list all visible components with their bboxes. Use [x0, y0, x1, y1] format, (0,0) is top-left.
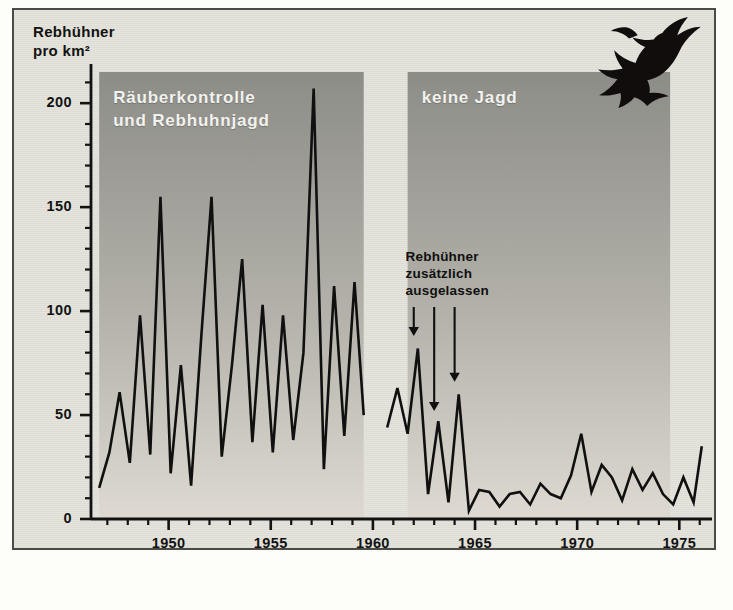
- y-tick-label: 100: [20, 302, 72, 318]
- chart-canvas: [0, 0, 733, 610]
- x-tick-label: 1960: [345, 535, 401, 551]
- x-tick-label: 1975: [651, 535, 707, 551]
- release-annotation-text: Rebhühner zusätzlich ausgelassen: [406, 248, 489, 299]
- y-axis-title: Rebhühner pro km²: [33, 22, 115, 60]
- y-tick-label: 0: [20, 510, 72, 526]
- flying-partridge-icon: [598, 17, 701, 108]
- x-tick-label: 1965: [447, 535, 503, 551]
- era-band-label-1: Räuberkontrolle und Rebhuhnjagd: [113, 86, 269, 132]
- era-band-label-2: keine Jagd: [422, 86, 518, 109]
- x-tick-label: 1950: [141, 535, 197, 551]
- y-tick-label: 50: [20, 406, 72, 422]
- y-tick-label: 150: [20, 198, 72, 214]
- x-tick-label: 1955: [243, 535, 299, 551]
- partridge-density-chart: Räuberkontrolle und Rebhuhnjagdkeine Jag…: [0, 0, 733, 610]
- y-tick-label: 200: [20, 94, 72, 110]
- x-tick-label: 1970: [549, 535, 605, 551]
